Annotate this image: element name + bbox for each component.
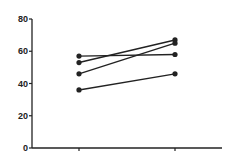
series-line [76, 71, 177, 92]
data-point [76, 71, 81, 76]
data-point [172, 41, 177, 46]
data-point [76, 53, 81, 58]
data-point [76, 60, 81, 65]
y-tick-label: 40 [18, 79, 28, 89]
data-point [172, 52, 177, 57]
series-line [76, 37, 177, 65]
data-point [172, 71, 177, 76]
series-line [76, 41, 177, 77]
series-line [76, 52, 177, 59]
y-tick-label: 60 [18, 46, 28, 56]
series-group [76, 37, 177, 92]
y-tick-label: 20 [18, 111, 28, 121]
y-tick-label: 80 [18, 14, 28, 24]
paired-line-chart: 020406080 [0, 0, 233, 164]
data-point [76, 87, 81, 92]
y-tick-label: 0 [23, 143, 28, 153]
